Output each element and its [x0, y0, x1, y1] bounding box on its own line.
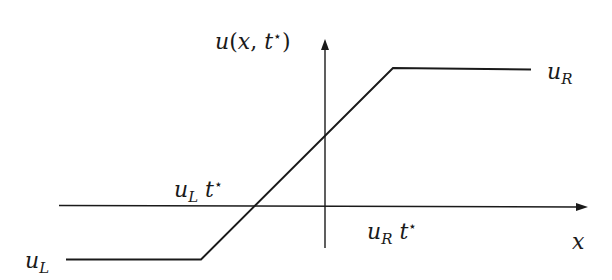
right-front-t: t: [399, 219, 408, 244]
y-axis-arrow-icon: [321, 39, 329, 50]
left-front-star: ⋆: [214, 176, 223, 192]
x-axis: [59, 206, 578, 208]
y-label-comma: ,: [250, 29, 264, 54]
left-front-sub: L: [188, 188, 198, 206]
x-axis-label: x: [572, 231, 584, 253]
right-front-sub: R: [381, 230, 392, 248]
y-label-arg1: x: [238, 29, 250, 54]
y-label-star: ⋆: [273, 28, 282, 44]
left-front-t: t: [205, 177, 214, 202]
right-front-label: uR t⋆: [367, 220, 417, 247]
right-state-label: uR: [547, 61, 572, 87]
y-axis-label: u(x, t⋆): [215, 30, 291, 53]
y-label-open: (: [229, 29, 238, 54]
y-label-close: ): [282, 29, 291, 54]
left-front-label: uL t⋆: [174, 178, 223, 205]
right-front-base: u: [367, 219, 381, 244]
left-front-base: u: [174, 177, 188, 202]
y-label-base: u: [215, 29, 229, 54]
right-state-base: u: [547, 59, 561, 84]
left-state-base: u: [25, 248, 39, 273]
diagram: u(x, t⋆) uR uL t⋆ uR t⋆ x uL: [0, 0, 612, 280]
left-state-label: uL: [25, 250, 49, 276]
solution-curve: [66, 68, 531, 260]
y-label-arg2: t: [264, 29, 273, 54]
right-front-star: ⋆: [408, 218, 417, 234]
x-axis-arrow-icon: [576, 203, 588, 211]
plot-svg: [0, 0, 612, 280]
left-state-sub: L: [39, 259, 49, 277]
right-state-sub: R: [561, 70, 572, 88]
x-label-text: x: [572, 229, 584, 254]
